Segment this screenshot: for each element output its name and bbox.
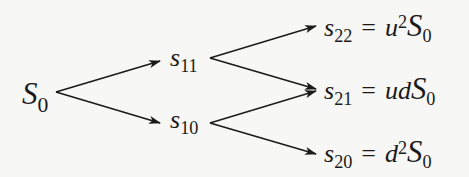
edge-s11-s21 xyxy=(210,58,316,89)
node-s10: s10 xyxy=(170,107,198,133)
edge-s0-s10 xyxy=(56,92,160,123)
node-s20: s20=d2S0 xyxy=(324,137,432,168)
node-s0-var: S xyxy=(22,76,38,111)
node-s0: S0 xyxy=(22,78,48,109)
edge-s11-s22 xyxy=(210,26,316,58)
equals-sign: = xyxy=(361,76,376,105)
node-s0-sub: 0 xyxy=(38,93,49,117)
edge-s10-s21 xyxy=(210,91,316,123)
edge-s10-s20 xyxy=(210,123,316,154)
node-s11: s11 xyxy=(170,45,198,71)
node-s22: s22=u2S0 xyxy=(324,11,432,42)
edge-s0-s11 xyxy=(56,61,160,92)
node-s21: s21=udS0 xyxy=(324,74,435,105)
equals-sign: = xyxy=(361,13,376,42)
equals-sign: = xyxy=(361,139,376,168)
